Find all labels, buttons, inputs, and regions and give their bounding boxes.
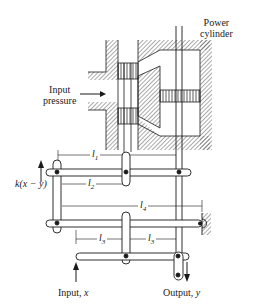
- dimension-l4-label: l4: [138, 199, 148, 215]
- dimension-l1-label: l1: [90, 148, 100, 164]
- power-cylinder-label: Power cylinder: [200, 17, 233, 39]
- input-variable: x: [84, 287, 88, 298]
- l1-subscript: 1: [95, 154, 99, 162]
- output-arrow: [184, 262, 190, 282]
- power-cylinder-label-line2: cylinder: [200, 28, 233, 39]
- input-arrow: [73, 262, 79, 282]
- output-label-text: Output,: [163, 287, 196, 298]
- ground-pivot: [198, 213, 211, 235]
- input-pressure-label: Input pressure: [43, 84, 76, 106]
- valve-spool: [118, 63, 138, 152]
- power-cylinder-label-line1: Power: [200, 17, 233, 28]
- input-label: Input, x: [58, 287, 89, 298]
- l3-right-subscript: 3: [151, 238, 155, 246]
- output-label: Output, y: [163, 287, 200, 298]
- input-label-text: Input,: [58, 287, 84, 298]
- dimension-l3-right-label: l3: [146, 232, 156, 248]
- input-pressure-arrow: [80, 91, 106, 97]
- input-pressure-label-line2: pressure: [43, 95, 76, 106]
- servo-diagram: [0, 0, 253, 307]
- l3-left-subscript: 3: [102, 238, 106, 246]
- l4-subscript: 4: [143, 205, 147, 213]
- output-variable: y: [196, 287, 200, 298]
- l2-subscript: 2: [91, 183, 95, 191]
- input-pressure-label-line1: Input: [43, 84, 76, 95]
- dimension-l2-label: l2: [86, 177, 96, 193]
- linkage: [46, 152, 202, 280]
- dimension-l3-left-label: l3: [97, 232, 107, 248]
- feedback-label: k(x − y): [15, 178, 47, 189]
